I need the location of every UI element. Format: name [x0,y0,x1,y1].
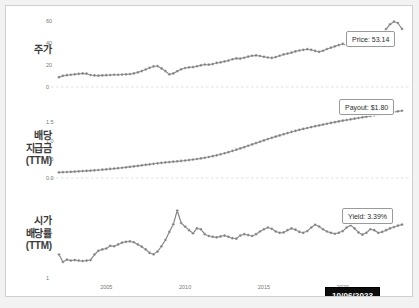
data-point [223,152,226,155]
data-point [105,247,108,250]
data-point [322,123,325,126]
data-point [69,170,72,173]
data-point [353,227,356,230]
data-point [365,115,368,118]
data-point [184,159,187,162]
data-point [58,76,61,79]
data-point [302,128,305,131]
data-point [231,150,234,153]
data-point [259,140,262,143]
data-point [207,63,210,66]
data-point [231,58,234,61]
data-point [101,248,104,251]
stacked-line-chart[interactable] [6,6,413,297]
data-point [69,73,72,76]
data-point [341,230,344,233]
data-point [109,168,112,171]
data-point [397,110,400,113]
data-point [286,132,289,135]
data-point [247,234,250,237]
callout-payout[interactable]: Payout: $1.80 [339,99,394,115]
data-point [140,164,143,167]
data-point [255,233,258,236]
data-point [148,252,151,255]
data-point [180,68,183,71]
data-point [203,233,206,236]
data-point [274,230,277,233]
data-point [263,228,266,231]
data-point [73,170,76,173]
data-point [267,56,270,59]
data-point [180,160,183,163]
data-point [66,258,69,261]
data-point [397,22,400,25]
data-point [314,125,317,128]
data-point [251,54,254,57]
data-point [239,234,242,237]
data-point [184,67,187,70]
data-point [314,223,317,226]
data-point [66,74,69,77]
data-point [334,121,337,124]
data-point [81,170,84,173]
data-point [282,231,285,234]
data-point [326,48,329,51]
data-point [89,74,92,77]
data-point [239,57,242,60]
data-point [290,131,293,134]
data-point [255,142,258,145]
data-point [251,235,254,238]
data-point [243,233,246,236]
data-point [294,228,297,231]
data-point [361,116,364,119]
data-point [393,226,396,229]
data-point [302,49,305,52]
data-point [263,56,266,59]
data-point [326,230,329,233]
callout-yield[interactable]: Yield: 3.39% [342,208,393,224]
data-point [274,135,277,138]
data-point [81,260,84,263]
data-point [77,73,80,76]
data-point [270,227,273,230]
data-point [125,166,128,169]
data-point [318,124,321,127]
data-point [270,57,273,60]
data-point [136,243,139,246]
data-point [152,65,155,68]
xtick-2010: 2010 [165,284,205,290]
data-point [133,241,136,244]
data-point [373,229,376,232]
data-point [306,48,309,51]
data-point [89,169,92,172]
data-point [196,227,199,230]
data-point [196,158,199,161]
data-point [172,160,175,163]
data-point [357,117,360,120]
data-point [337,44,340,47]
data-point [113,167,116,170]
callout-price[interactable]: Price: 53.14 [346,31,395,47]
data-point [306,127,309,130]
data-point [357,231,360,234]
ytick-yield-1: 1 [46,275,49,281]
data-point [97,169,100,172]
data-point [188,229,191,232]
data-point [136,165,139,168]
data-point [148,66,151,69]
data-point [211,236,214,239]
data-point [401,109,404,112]
data-point [77,259,80,262]
date-tooltip[interactable]: 10/06/2023 [325,287,380,297]
data-point [188,159,191,162]
data-point [121,241,124,244]
data-point [113,245,116,248]
data-point [109,244,112,247]
data-point [136,71,139,74]
data-point [188,66,191,69]
data-point [192,66,195,69]
data-point [200,157,203,160]
data-point [227,151,230,154]
data-point [278,134,281,137]
data-point [274,56,277,59]
